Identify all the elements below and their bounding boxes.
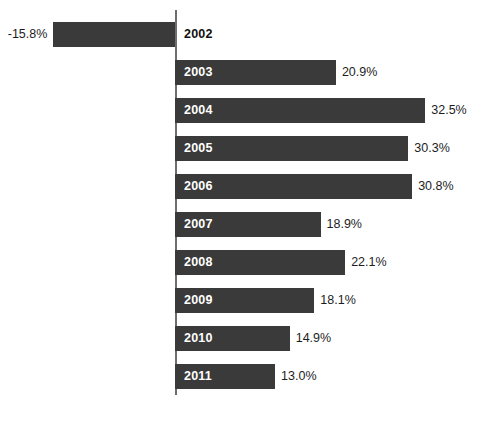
bar-category-label-2007: 2007 [184,212,213,237]
bar-category-label-2009: 2009 [184,288,213,313]
bar-row: 200320.9% [0,60,483,85]
bar-value-label-2009: 18.1% [320,288,355,313]
bar-category-label-2002: 2002 [184,22,213,47]
bar-row: 200718.9% [0,212,483,237]
bar-value-label-2003: 20.9% [342,60,377,85]
bar-category-label-2011: 2011 [184,364,212,389]
bar-row: 200630.8% [0,174,483,199]
bar-category-label-2010: 2010 [184,326,213,351]
bar-value-label-2008: 22.1% [351,250,386,275]
bar-row: 200918.1% [0,288,483,313]
bar-value-label-2011: 13.0% [281,364,316,389]
bar-value-label-2006: 30.8% [418,174,453,199]
bar-value-label-2007: 18.9% [327,212,362,237]
bar-value-label-2005: 30.3% [414,136,449,161]
bar-value-label-2002: -15.8% [8,22,48,47]
bar-row: 200432.5% [0,98,483,123]
bar-chart: 2002-15.8%200320.9%200432.5%200530.3%200… [0,0,483,421]
bar-row: 201113.0% [0,364,483,389]
bar-row: 2002-15.8% [0,22,483,47]
bar-category-label-2008: 2008 [184,250,213,275]
bar-category-label-2003: 2003 [184,60,213,85]
bar-category-label-2006: 2006 [184,174,213,199]
bar-2002 [53,22,175,47]
bar-category-label-2004: 2004 [184,98,213,123]
bar-value-label-2010: 14.9% [296,326,331,351]
bar-row: 200530.3% [0,136,483,161]
bar-row: 200822.1% [0,250,483,275]
bar-category-label-2005: 2005 [184,136,213,161]
bar-value-label-2004: 32.5% [431,98,466,123]
bar-row: 201014.9% [0,326,483,351]
